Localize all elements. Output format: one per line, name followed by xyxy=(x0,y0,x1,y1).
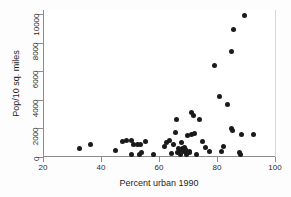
y-axis-tick-label: 4000 xyxy=(32,99,41,117)
data-point xyxy=(194,152,199,157)
data-point xyxy=(221,144,226,149)
data-point xyxy=(219,149,224,154)
data-point xyxy=(151,152,156,157)
data-point xyxy=(229,49,234,54)
data-point xyxy=(171,142,176,147)
plot-frame-right xyxy=(275,10,276,158)
data-point xyxy=(143,139,148,144)
data-point xyxy=(239,132,244,137)
data-point xyxy=(238,152,243,157)
data-point xyxy=(217,94,222,99)
plot-area xyxy=(43,10,275,157)
y-axis-tick-label: 8000 xyxy=(32,42,41,60)
data-point xyxy=(192,131,197,136)
data-point xyxy=(242,13,247,18)
data-point xyxy=(225,102,230,107)
x-axis-tick-label: 100 xyxy=(260,163,290,172)
x-axis-tick xyxy=(159,157,160,162)
y-axis-tick-label: 10000 xyxy=(32,14,41,36)
x-axis-tick xyxy=(43,157,44,162)
x-axis-tick-label: 60 xyxy=(144,163,174,172)
data-point xyxy=(200,139,205,144)
data-point xyxy=(197,117,202,122)
x-axis-tick-label: 20 xyxy=(28,163,58,172)
x-axis-label: Percent urban 1990 xyxy=(43,178,275,188)
data-point xyxy=(187,150,192,155)
data-point xyxy=(162,144,167,149)
y-axis-label: Pop/10 sq. miles xyxy=(10,10,22,157)
data-point xyxy=(77,146,82,151)
x-axis-tick xyxy=(101,157,102,162)
data-point xyxy=(88,142,93,147)
data-point xyxy=(231,27,236,32)
data-point xyxy=(113,148,118,153)
data-point xyxy=(169,151,174,156)
data-point xyxy=(129,152,134,157)
data-point xyxy=(139,150,144,155)
data-point xyxy=(191,113,196,118)
data-point xyxy=(212,63,217,68)
data-point xyxy=(207,149,212,154)
data-point xyxy=(230,128,235,133)
scatter-plot-figure: 020004000600080001000020406080100 Pop/10… xyxy=(0,0,291,197)
data-point xyxy=(174,117,179,122)
data-point xyxy=(173,130,178,135)
y-axis-tick-label: 6000 xyxy=(32,71,41,89)
y-axis-tick-label: 0 xyxy=(32,157,41,161)
x-axis-tick-label: 40 xyxy=(86,163,116,172)
x-axis-tick-label: 80 xyxy=(202,163,232,172)
x-axis-tick xyxy=(275,157,276,162)
data-point xyxy=(251,132,256,137)
x-axis-tick xyxy=(217,157,218,162)
y-axis-tick-label: 2000 xyxy=(32,128,41,146)
